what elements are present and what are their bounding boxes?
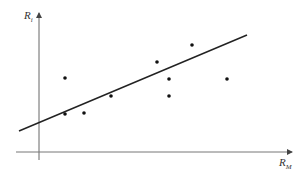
data-point [225, 77, 229, 81]
data-point [155, 60, 159, 64]
y-axis-label: Ri [24, 10, 33, 24]
x-axis-label: RM [279, 157, 292, 171]
data-point [190, 43, 194, 47]
y-axis-label-sub: i [31, 16, 33, 24]
scatter-plot [0, 0, 302, 173]
x-axis-label-sub: M [286, 163, 292, 171]
data-points [63, 43, 229, 116]
data-point [63, 76, 67, 80]
data-point [109, 94, 113, 98]
x-axis-label-main: R [279, 156, 286, 168]
data-point [167, 94, 171, 98]
data-point [82, 111, 86, 115]
y-axis-label-main: R [24, 9, 31, 21]
data-point [167, 77, 171, 81]
regression-line [19, 35, 247, 131]
data-point [63, 112, 67, 116]
